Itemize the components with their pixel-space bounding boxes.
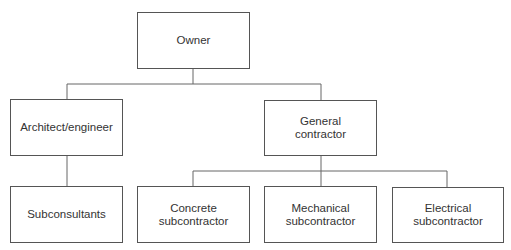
- node-concrete-label-line1: Concrete: [170, 202, 217, 215]
- node-architect-label: Architect/engineer: [20, 121, 113, 134]
- node-electrical-subcontractor: Electrical subcontractor: [392, 187, 504, 243]
- node-concrete-subcontractor: Concrete subcontractor: [137, 186, 250, 243]
- node-mechanical-label-line2: subcontractor: [286, 215, 356, 228]
- node-gc-label-line2: contractor: [295, 128, 346, 141]
- node-subconsultants-label: Subconsultants: [27, 208, 106, 221]
- org-chart: Owner Architect/engineer General contrac…: [0, 0, 511, 250]
- node-owner: Owner: [137, 12, 250, 69]
- node-owner-label: Owner: [177, 34, 211, 47]
- node-mechanical-label-line1: Mechanical: [291, 202, 349, 215]
- node-concrete-label-line2: subcontractor: [159, 215, 229, 228]
- node-electrical-label-line1: Electrical: [425, 202, 472, 215]
- node-gc-label-line1: General: [300, 115, 341, 128]
- node-general-contractor: General contractor: [264, 100, 377, 156]
- node-electrical-label-line2: subcontractor: [413, 215, 483, 228]
- node-architect-engineer: Architect/engineer: [10, 99, 123, 156]
- node-mechanical-subcontractor: Mechanical subcontractor: [264, 186, 377, 243]
- node-subconsultants: Subconsultants: [10, 186, 123, 243]
